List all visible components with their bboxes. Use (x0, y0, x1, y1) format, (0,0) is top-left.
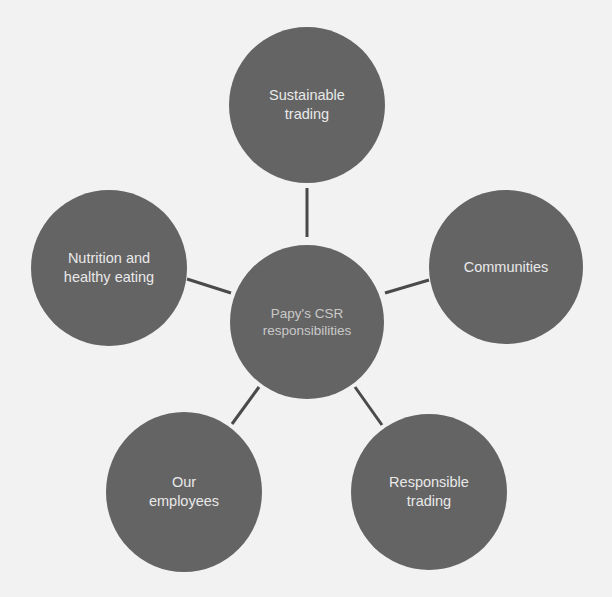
center-node: Papy's CSR responsibilities (230, 245, 384, 399)
node-label: Responsible trading (379, 473, 479, 511)
connector-left (187, 279, 231, 293)
node-label: Nutrition and healthy eating (54, 249, 164, 287)
connector-right (385, 280, 429, 293)
node-label: Sustainable trading (259, 86, 355, 124)
node-sustainable-trading: Sustainable trading (229, 27, 385, 183)
node-communities: Communities (429, 190, 583, 344)
node-label: Our employees (139, 473, 229, 511)
csr-diagram: Papy's CSR responsibilities Sustainable … (0, 0, 612, 597)
center-node-label: Papy's CSR responsibilities (253, 305, 362, 339)
node-our-employees: Our employees (106, 412, 262, 572)
node-nutrition-healthy-eating: Nutrition and healthy eating (31, 190, 187, 346)
node-label: Communities (454, 258, 559, 277)
connector-bottom-right (355, 387, 382, 425)
connector-bottom-left (232, 387, 259, 424)
node-responsible-trading: Responsible trading (351, 414, 507, 570)
